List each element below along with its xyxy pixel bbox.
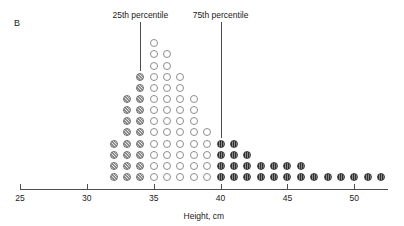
dot-37-2 — [176, 162, 184, 170]
dot-36-3 — [163, 151, 171, 159]
x-axis-tick-label-50: 50 — [350, 193, 359, 203]
dot-33-3 — [123, 151, 131, 159]
dot-41-2 — [230, 162, 238, 170]
dot-39-2 — [203, 162, 211, 170]
dot-40-3 — [217, 151, 225, 159]
dot-39-1 — [203, 173, 211, 181]
dot-38-6 — [190, 117, 198, 125]
dot-37-8 — [176, 95, 184, 103]
dot-37-9 — [176, 84, 184, 92]
dot-47-1 — [310, 173, 318, 181]
dot-41-1 — [230, 173, 238, 181]
dot-40-2 — [217, 162, 225, 170]
dot-40-4 — [217, 140, 225, 148]
dot-33-4 — [123, 140, 131, 148]
dot-32-3 — [110, 151, 118, 159]
dot-35-4 — [150, 140, 158, 148]
dot-39-5 — [203, 128, 211, 136]
dot-46-2 — [297, 162, 305, 170]
dot-38-2 — [190, 162, 198, 170]
dot-38-8 — [190, 95, 198, 103]
dot-33-5 — [123, 128, 131, 136]
dot-37-5 — [176, 128, 184, 136]
annotation-label-p25: 25th percentile — [112, 10, 168, 20]
x-axis-tick-35 — [154, 184, 155, 189]
dot-36-7 — [163, 106, 171, 114]
dot-38-1 — [190, 173, 198, 181]
dot-36-5 — [163, 128, 171, 136]
dot-35-1 — [150, 173, 158, 181]
dot-44-2 — [270, 162, 278, 170]
dot-40-1 — [217, 173, 225, 181]
dot-42-2 — [243, 162, 251, 170]
x-axis-line — [20, 189, 388, 190]
dot-36-12 — [163, 50, 171, 58]
dot-36-10 — [163, 73, 171, 81]
dot-43-2 — [257, 162, 265, 170]
dot-45-1 — [283, 173, 291, 181]
dot-32-4 — [110, 140, 118, 148]
annotation-line-p75 — [221, 22, 222, 138]
dot-41-4 — [230, 140, 238, 148]
dot-38-7 — [190, 106, 198, 114]
x-axis-tick-40 — [221, 184, 222, 189]
dot-33-1 — [123, 173, 131, 181]
dot-35-3 — [150, 151, 158, 159]
dot-36-8 — [163, 95, 171, 103]
dot-45-2 — [283, 162, 291, 170]
x-axis-tick-label-30: 30 — [82, 193, 91, 203]
dot-46-1 — [297, 173, 305, 181]
dot-35-12 — [150, 50, 158, 58]
dot-34-7 — [136, 106, 144, 114]
dot-plot-figure: B 25th percentile75th percentile 2530354… — [0, 0, 404, 226]
dot-36-1 — [163, 173, 171, 181]
dot-35-7 — [150, 106, 158, 114]
dot-34-3 — [136, 151, 144, 159]
dot-35-5 — [150, 128, 158, 136]
dot-34-2 — [136, 162, 144, 170]
dot-38-4 — [190, 140, 198, 148]
dot-42-1 — [243, 173, 251, 181]
dot-39-4 — [203, 140, 211, 148]
dot-49-1 — [337, 173, 345, 181]
dot-36-4 — [163, 140, 171, 148]
panel-letter: B — [14, 18, 21, 28]
dot-34-5 — [136, 128, 144, 136]
dot-34-8 — [136, 95, 144, 103]
dot-37-6 — [176, 117, 184, 125]
dot-37-1 — [176, 173, 184, 181]
dot-34-9 — [136, 84, 144, 92]
dot-35-8 — [150, 95, 158, 103]
dot-42-3 — [243, 151, 251, 159]
dot-35-13 — [150, 39, 158, 47]
dot-34-10 — [136, 73, 144, 81]
dot-37-10 — [176, 73, 184, 81]
dot-35-10 — [150, 73, 158, 81]
dot-34-1 — [136, 173, 144, 181]
dot-35-6 — [150, 117, 158, 125]
x-axis-tick-45 — [287, 184, 288, 189]
x-axis-tick-label-45: 45 — [283, 193, 292, 203]
dot-37-3 — [176, 151, 184, 159]
dot-35-11 — [150, 62, 158, 70]
dot-33-6 — [123, 117, 131, 125]
x-axis-title: Height, cm — [184, 211, 225, 221]
x-axis-tick-30 — [87, 184, 88, 189]
dot-34-4 — [136, 140, 144, 148]
dot-36-6 — [163, 117, 171, 125]
dot-36-9 — [163, 84, 171, 92]
annotation-line-p25 — [140, 22, 141, 71]
dot-36-2 — [163, 162, 171, 170]
dot-34-6 — [136, 117, 144, 125]
dot-44-1 — [270, 173, 278, 181]
dot-50-1 — [350, 173, 358, 181]
dot-52-1 — [377, 173, 385, 181]
dot-38-5 — [190, 128, 198, 136]
dot-33-7 — [123, 106, 131, 114]
dot-43-1 — [257, 173, 265, 181]
dot-38-3 — [190, 151, 198, 159]
dot-36-11 — [163, 62, 171, 70]
x-axis-tick-label-25: 25 — [15, 193, 24, 203]
dot-33-8 — [123, 95, 131, 103]
dot-51-1 — [364, 173, 372, 181]
